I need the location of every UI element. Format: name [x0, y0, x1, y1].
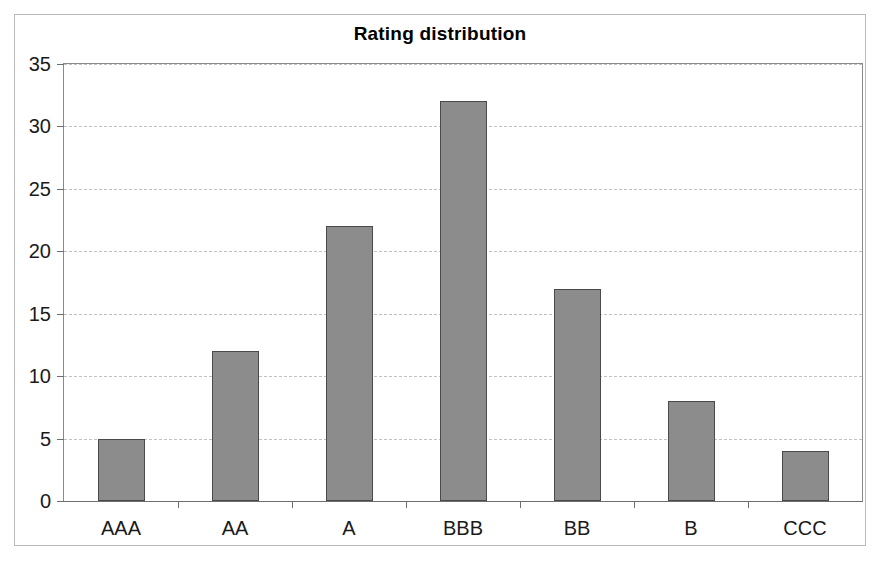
y-tick-label: 30 — [29, 115, 51, 138]
x-tick-label: A — [342, 517, 355, 540]
y-tick-label: 15 — [29, 302, 51, 325]
bar — [212, 351, 259, 501]
y-tick-label: 5 — [40, 427, 51, 450]
y-tick-label: 0 — [40, 490, 51, 513]
bar — [554, 289, 601, 501]
y-tick-mark — [57, 439, 64, 440]
x-tick-label: AAA — [101, 517, 141, 540]
chart-title: Rating distribution — [15, 23, 865, 45]
x-tick-mark — [178, 501, 179, 508]
chart-frame: Rating distribution 05101520253035 AAAAA… — [14, 14, 866, 546]
y-tick-label: 20 — [29, 240, 51, 263]
x-tick-label: BBB — [443, 517, 483, 540]
x-tick-mark — [292, 501, 293, 508]
y-tick-mark — [57, 501, 64, 502]
bar — [668, 401, 715, 501]
bar — [440, 101, 487, 501]
x-tick-mark — [406, 501, 407, 508]
y-tick-mark — [57, 126, 64, 127]
x-tick-label: CCC — [783, 517, 826, 540]
y-tick-label: 10 — [29, 365, 51, 388]
x-tick-label: BB — [564, 517, 591, 540]
y-tick-mark — [57, 314, 64, 315]
plot-area: 05101520253035 AAAAAABBBBBBCCC — [63, 63, 863, 502]
x-tick-mark — [634, 501, 635, 508]
x-tick-label: B — [684, 517, 697, 540]
bar — [98, 439, 145, 501]
bar — [782, 451, 829, 501]
y-tick-mark — [57, 251, 64, 252]
y-tick-mark — [57, 376, 64, 377]
y-tick-label: 35 — [29, 53, 51, 76]
x-tick-label: AA — [222, 517, 249, 540]
x-tick-mark — [520, 501, 521, 508]
x-tick-mark — [748, 501, 749, 508]
y-tick-mark — [57, 189, 64, 190]
bar — [326, 226, 373, 501]
y-tick-mark — [57, 64, 64, 65]
gridline — [64, 64, 862, 65]
y-tick-label: 25 — [29, 177, 51, 200]
